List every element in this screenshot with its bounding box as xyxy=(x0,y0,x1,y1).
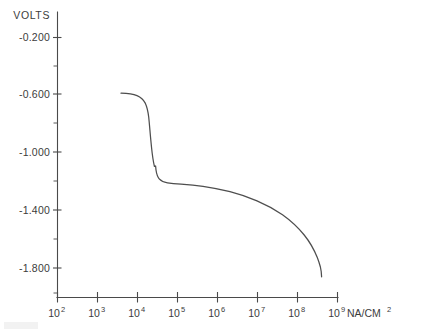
x-tick-base: 10 xyxy=(128,307,140,319)
x-tick-base: 10 xyxy=(288,307,300,319)
y-tick-label: -1.800 xyxy=(19,262,50,274)
x-tick-label: 10 5 xyxy=(168,305,185,319)
y-axis-title: VOLTS xyxy=(13,9,50,21)
x-axis-group xyxy=(57,292,338,303)
x-tick-base: 10 xyxy=(48,307,60,319)
chart-container: VOLTS -0.200 -0.600 -1.000 -1.400 -1.800… xyxy=(0,0,428,336)
x-tick-exponent: 9 xyxy=(341,305,345,314)
x-tick-label: 10 4 xyxy=(128,305,145,319)
x-tick-base: 10 xyxy=(208,307,220,319)
x-tick-base: 10 xyxy=(88,307,100,319)
y-tick-label: -0.200 xyxy=(19,31,50,43)
x-tick-label: 10 2 xyxy=(48,305,65,319)
scan-artifact xyxy=(4,322,38,329)
y-axis-group xyxy=(53,12,62,298)
x-tick-base: 10 xyxy=(248,307,260,319)
x-tick-base: 10 xyxy=(328,307,340,319)
x-tick-exponent: 6 xyxy=(221,305,225,314)
polarization-chart: VOLTS -0.200 -0.600 -1.000 -1.400 -1.800… xyxy=(0,0,428,336)
x-tick-exponent: 3 xyxy=(101,305,105,314)
x-tick-label: 10 6 xyxy=(208,305,225,319)
y-tick-label: -1.400 xyxy=(19,204,50,216)
x-tick-exponent: 4 xyxy=(141,305,145,314)
x-tick-label: 10 8 xyxy=(288,305,305,319)
x-axis-unit-label: NA/CM 2 xyxy=(347,305,391,319)
x-tick-base: 10 xyxy=(168,307,180,319)
polarization-curve xyxy=(121,93,322,277)
x-axis-unit-base: NA/CM xyxy=(347,307,381,319)
x-axis-unit-exponent: 2 xyxy=(387,305,391,314)
x-tick-label: 10 7 xyxy=(248,305,265,319)
x-tick-exponent: 5 xyxy=(181,305,185,314)
y-tick-label: -1.000 xyxy=(19,146,50,158)
x-tick-label-last: 10 9 xyxy=(328,305,345,319)
x-tick-exponent: 7 xyxy=(261,305,265,314)
x-tick-exponent: 2 xyxy=(61,305,65,314)
x-tick-exponent: 8 xyxy=(301,305,305,314)
x-tick-label: 10 3 xyxy=(88,305,105,319)
y-tick-label: -0.600 xyxy=(19,88,50,100)
